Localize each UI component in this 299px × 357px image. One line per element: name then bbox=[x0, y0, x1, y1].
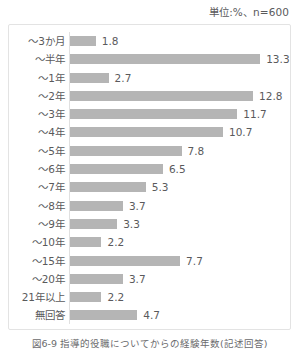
bar-row: ～10年2.2 bbox=[9, 233, 291, 251]
bar-category-label: 無回答 bbox=[9, 306, 65, 324]
bar-row: ～2年12.8 bbox=[9, 87, 291, 105]
bar-value-label: 3.7 bbox=[129, 270, 146, 288]
bar-chart-plot: ～3か月1.8～半年13.3～1年2.7～2年12.8～3年11.7～4年10.… bbox=[9, 32, 291, 328]
bar-row: ～半年13.3 bbox=[9, 50, 291, 68]
bar bbox=[70, 73, 109, 83]
bar bbox=[70, 292, 101, 302]
bar-row: ～3か月1.8 bbox=[9, 32, 291, 50]
bar-value-label: 6.5 bbox=[169, 160, 186, 178]
bar-value-label: 3.3 bbox=[123, 215, 140, 233]
bar-value-label: 2.2 bbox=[107, 288, 124, 306]
bar bbox=[70, 36, 96, 46]
chart-frame: ～3か月1.8～半年13.3～1年2.7～2年12.8～3年11.7～4年10.… bbox=[8, 24, 291, 330]
bar-category-label: ～20年 bbox=[9, 270, 65, 288]
bar-category-label: ～3年 bbox=[9, 105, 65, 123]
bar-category-label: ～8年 bbox=[9, 197, 65, 215]
bar-row: ～4年10.7 bbox=[9, 123, 291, 141]
bar bbox=[70, 201, 123, 211]
bar-row: ～20年3.7 bbox=[9, 270, 291, 288]
bar-row: ～6年6.5 bbox=[9, 160, 291, 178]
bar-category-label: ～4年 bbox=[9, 123, 65, 141]
bar-category-label: ～7年 bbox=[9, 178, 65, 196]
bar bbox=[70, 274, 123, 284]
bar-category-label: ～3か月 bbox=[9, 32, 65, 50]
bar-row: ～1年2.7 bbox=[9, 69, 291, 87]
bar bbox=[70, 109, 237, 119]
bar-value-label: 13.3 bbox=[266, 50, 289, 68]
bar-row: ～5年7.8 bbox=[9, 142, 291, 160]
bar-category-label: ～半年 bbox=[9, 50, 65, 68]
bar bbox=[70, 127, 223, 137]
bar bbox=[70, 54, 260, 64]
bar-value-label: 3.7 bbox=[129, 197, 146, 215]
bar-value-label: 2.7 bbox=[115, 69, 132, 87]
bar-category-label: ～10年 bbox=[9, 233, 65, 251]
bar-category-label: ～15年 bbox=[9, 252, 65, 270]
bar bbox=[70, 219, 117, 229]
bar-row: ～3年11.7 bbox=[9, 105, 291, 123]
bar-category-label: 21年以上 bbox=[9, 288, 65, 306]
bar bbox=[70, 310, 137, 320]
bar-row: ～8年3.7 bbox=[9, 197, 291, 215]
bar-row: ～15年7.7 bbox=[9, 252, 291, 270]
bar-category-label: ～9年 bbox=[9, 215, 65, 233]
bar-row: ～7年5.3 bbox=[9, 178, 291, 196]
bar bbox=[70, 256, 180, 266]
unit-note: 単位:%、n=600 bbox=[209, 4, 289, 19]
bar bbox=[70, 182, 146, 192]
bar-value-label: 11.7 bbox=[243, 105, 266, 123]
bar-category-label: ～1年 bbox=[9, 69, 65, 87]
bar-value-label: 1.8 bbox=[102, 32, 119, 50]
bar-row: ～9年3.3 bbox=[9, 215, 291, 233]
bar bbox=[70, 146, 182, 156]
bar-row: 無回答4.7 bbox=[9, 306, 291, 324]
bar-category-label: ～6年 bbox=[9, 160, 65, 178]
bar bbox=[70, 164, 163, 174]
bar bbox=[70, 237, 101, 247]
bar-value-label: 4.7 bbox=[143, 306, 160, 324]
bar-value-label: 10.7 bbox=[229, 123, 252, 141]
bar-row: 21年以上2.2 bbox=[9, 288, 291, 306]
bar-category-label: ～5年 bbox=[9, 142, 65, 160]
bar-category-label: ～2年 bbox=[9, 87, 65, 105]
bar-value-label: 5.3 bbox=[152, 178, 169, 196]
bar-value-label: 2.2 bbox=[107, 233, 124, 251]
bar bbox=[70, 91, 253, 101]
bar-value-label: 7.7 bbox=[186, 252, 203, 270]
figure-caption: 図6-9 指導的役職についてからの経験年数(記述回答) bbox=[0, 336, 299, 350]
bar-value-label: 12.8 bbox=[259, 87, 282, 105]
bar-value-label: 7.8 bbox=[188, 142, 205, 160]
chart-page: 単位:%、n=600 ～3か月1.8～半年13.3～1年2.7～2年12.8～3… bbox=[0, 0, 299, 357]
